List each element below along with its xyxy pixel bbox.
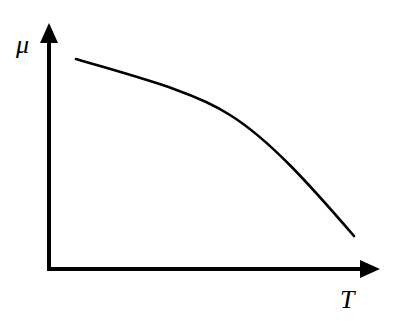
mu-vs-t-curve [76,59,354,236]
y-axis-label: μ [16,32,29,58]
x-axis-arrow-icon [360,260,380,278]
chart-canvas [0,0,395,329]
y-axis-arrow-icon [40,23,58,43]
x-axis-label: T [340,287,354,313]
